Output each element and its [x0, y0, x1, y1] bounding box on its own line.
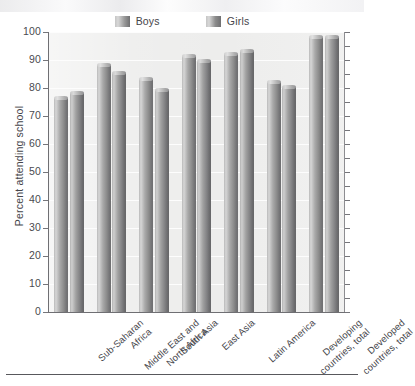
legend-item-girls: Girls	[206, 15, 250, 27]
y-tick-label: 100	[1, 25, 41, 37]
y-tick-label: 80	[1, 81, 41, 93]
y-tick-label: 20	[1, 249, 41, 261]
y-tick-mark-right	[345, 312, 350, 313]
y-axis-line	[48, 32, 49, 313]
legend-swatch-girls	[206, 16, 221, 27]
bar-body	[267, 82, 281, 312]
legend-swatch-boys	[115, 16, 130, 27]
y-tick-mark-right	[345, 242, 350, 243]
bar-group	[218, 32, 260, 312]
bar-boys	[267, 80, 281, 312]
y-tick-mark	[43, 172, 48, 173]
bar-cap	[197, 59, 211, 63]
y-tick-label: 30	[1, 221, 41, 233]
y-tick-label: 50	[1, 165, 41, 177]
bar-cap	[182, 54, 196, 58]
bar-body	[97, 65, 111, 312]
y-tick-mark	[43, 116, 48, 117]
bar-group	[133, 32, 175, 312]
y-tick-mark-right	[345, 102, 350, 103]
bar-cap	[240, 49, 254, 53]
bar-group	[260, 32, 302, 312]
bar-group	[175, 32, 217, 312]
bar-boys	[224, 52, 238, 312]
x-axis-tick-labels: Sub-SaharanAfricaMiddle East andNorth Af…	[48, 313, 345, 383]
y-tick-mark-right	[345, 298, 350, 299]
y-tick-mark	[43, 228, 48, 229]
bar-boys	[309, 35, 323, 312]
y-tick-mark-right	[345, 60, 350, 61]
bar-girls	[282, 85, 296, 312]
y-tick-label: 70	[1, 109, 41, 121]
legend-label-girls: Girls	[227, 15, 250, 27]
x-tick-label: East Asia	[219, 317, 257, 353]
y-tick-label: 90	[1, 53, 41, 65]
bar-body	[112, 73, 126, 312]
bar-body	[155, 90, 169, 312]
bar-girls	[197, 59, 211, 312]
y-tick-mark	[43, 88, 48, 89]
bar-cap	[70, 91, 84, 95]
bar-group	[90, 32, 132, 312]
bar-boys	[182, 54, 196, 312]
bar-body	[70, 93, 84, 312]
chart-legend: Boys Girls	[0, 13, 364, 29]
bar-group	[303, 32, 345, 312]
y-tick-mark-right	[345, 228, 350, 229]
legend-label-boys: Boys	[136, 15, 160, 27]
y-tick-mark-right	[345, 200, 350, 201]
y-axis-tick-labels: 1009080706050403020100	[0, 32, 41, 313]
y-tick-mark-right	[345, 74, 350, 75]
bar-group	[48, 32, 90, 312]
bar-boys	[139, 77, 153, 312]
y-tick-mark	[43, 200, 48, 201]
y-tick-mark-right	[345, 88, 350, 89]
bar-body	[54, 98, 68, 312]
legend-item-boys: Boys	[115, 15, 160, 27]
y-tick-mark-right	[345, 270, 350, 271]
y-tick-mark-right	[345, 144, 350, 145]
bar-body	[182, 56, 196, 312]
bar-cap	[139, 77, 153, 81]
y-tick-mark-right	[345, 256, 350, 257]
y-tick-label: 60	[1, 137, 41, 149]
y-tick-label: 0	[1, 305, 41, 317]
bar-girls	[240, 49, 254, 312]
bar-cap	[267, 80, 281, 84]
bar-cap	[224, 52, 238, 56]
y-tick-mark-right	[345, 158, 350, 159]
bar-girls	[70, 91, 84, 312]
bar-body	[139, 79, 153, 312]
y-tick-mark	[43, 144, 48, 145]
y-tick-label: 40	[1, 193, 41, 205]
bar-body	[282, 87, 296, 312]
y-tick-mark-right	[345, 186, 350, 187]
bar-cap	[155, 88, 169, 92]
bar-girls	[325, 35, 339, 312]
figure-bottom-rule	[6, 374, 358, 375]
y-tick-mark-right	[345, 46, 350, 47]
bar-body	[325, 37, 339, 312]
x-tick-label: Middle East andNorth Africa	[142, 317, 209, 381]
bar-cap	[112, 71, 126, 75]
bar-boys	[54, 96, 68, 312]
y-tick-mark	[43, 256, 48, 257]
y-tick-mark-right	[345, 214, 350, 215]
y-tick-mark-right	[345, 172, 350, 173]
bar-body	[240, 51, 254, 312]
y-tick-label: 10	[1, 277, 41, 289]
y-tick-mark-right	[345, 130, 350, 131]
bar-body	[309, 37, 323, 312]
y-tick-mark	[43, 32, 48, 33]
bar-cap	[97, 63, 111, 67]
bar-girls	[112, 71, 126, 312]
plot-area	[48, 32, 345, 312]
y-tick-mark	[43, 284, 48, 285]
bar-body	[197, 61, 211, 312]
bar-boys	[97, 63, 111, 312]
y-tick-mark-right	[345, 284, 350, 285]
bar-cap	[282, 85, 296, 89]
bar-girls	[155, 88, 169, 312]
bar-body	[224, 54, 238, 312]
